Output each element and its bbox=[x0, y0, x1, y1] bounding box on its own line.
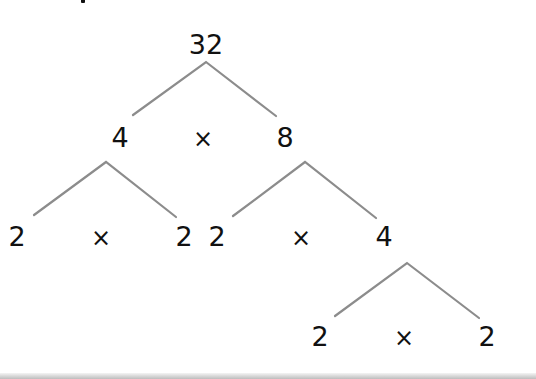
node-l2b-left: 2 bbox=[208, 223, 225, 250]
factor-tree-branches bbox=[0, 0, 536, 379]
node-l1-right: 8 bbox=[276, 124, 293, 151]
branch-4b bbox=[335, 263, 479, 318]
node-l2b-right: 4 bbox=[375, 223, 392, 250]
branch-8 bbox=[233, 162, 376, 218]
node-l3-right: 2 bbox=[478, 323, 495, 350]
node-l1-left: 4 bbox=[111, 124, 128, 151]
node-l3-left: 2 bbox=[311, 323, 328, 350]
times-icon: × bbox=[291, 226, 311, 250]
times-icon: × bbox=[193, 127, 213, 151]
node-l2a-left: 2 bbox=[8, 223, 25, 250]
node-l2a-right: 2 bbox=[175, 223, 192, 250]
branch-4 bbox=[34, 162, 176, 217]
branch-32 bbox=[133, 62, 276, 116]
node-root: 32 bbox=[189, 31, 223, 58]
times-icon: × bbox=[91, 226, 111, 250]
bottom-edge-shadow bbox=[0, 373, 536, 379]
times-icon: × bbox=[394, 326, 414, 350]
